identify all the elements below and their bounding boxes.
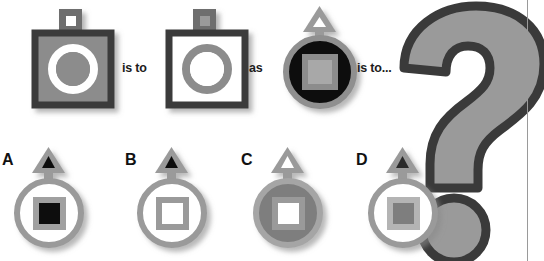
option-d[interactable]	[368, 145, 464, 257]
option-d-graphic[interactable]	[368, 145, 464, 257]
figure-3-graphic	[286, 2, 382, 118]
analogy-puzzle: is to as	[0, 0, 544, 261]
option-c[interactable]	[253, 145, 349, 257]
option-d-body[interactable]	[371, 147, 435, 245]
inner-square-ring	[275, 200, 302, 227]
prompt-figure-1	[26, 4, 130, 116]
connector-is-to-ellipsis: is to...	[357, 61, 392, 75]
option-letter-c: C	[241, 151, 253, 169]
inner-square-ring	[159, 200, 186, 227]
option-b-body[interactable]	[140, 147, 204, 245]
inner-square-fill	[393, 203, 414, 224]
inner-disc	[190, 52, 224, 86]
option-c-graphic[interactable]	[253, 145, 349, 257]
option-a-body[interactable]	[17, 147, 81, 245]
option-a[interactable]	[14, 145, 110, 257]
option-letter-a: A	[2, 151, 14, 169]
figure-2-body	[169, 9, 245, 105]
option-a-graphic[interactable]	[14, 145, 110, 257]
right-edge-divider	[527, 0, 528, 261]
option-c-body[interactable]	[256, 147, 320, 245]
figure-2-graphic	[163, 4, 263, 116]
prompt-figure-2	[163, 4, 263, 116]
inner-disc	[56, 52, 90, 86]
figure-3-body	[286, 6, 354, 106]
inner-square-fill	[39, 203, 60, 224]
connector-as: as	[249, 61, 263, 75]
antenna-inner-square	[200, 16, 210, 26]
inner-square-fill	[308, 60, 332, 84]
option-b[interactable]	[137, 145, 233, 257]
prompt-figure-3	[286, 2, 382, 118]
option-b-graphic[interactable]	[137, 145, 233, 257]
connector-is-to: is to	[122, 61, 147, 75]
option-letter-d: D	[356, 151, 368, 169]
antenna-inner-square	[66, 16, 76, 26]
option-letter-b: B	[125, 151, 137, 169]
figure-1-graphic	[26, 4, 130, 116]
figure-1-body	[35, 9, 111, 105]
